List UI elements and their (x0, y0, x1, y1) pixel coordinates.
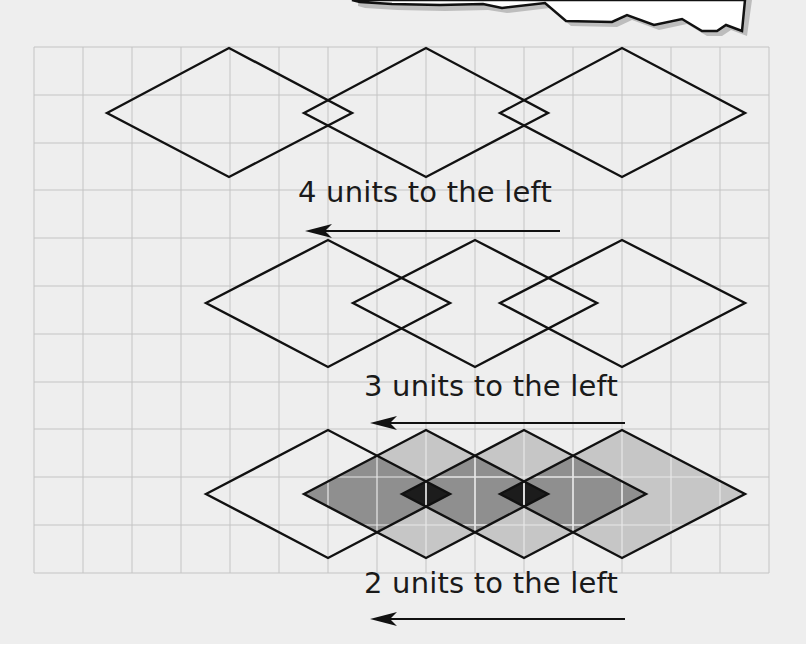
left-arrow-icon (370, 612, 625, 626)
torn-paper-note (352, 0, 752, 36)
caption-row-2: 3 units to the left (364, 372, 618, 401)
left-arrow-icon (305, 224, 560, 238)
translation-diagram (0, 0, 810, 653)
caption-row-3: 2 units to the left (364, 569, 618, 598)
overlap-shading (300, 429, 750, 560)
left-arrow-icon (370, 416, 625, 430)
caption-row-1: 4 units to the left (298, 178, 552, 207)
